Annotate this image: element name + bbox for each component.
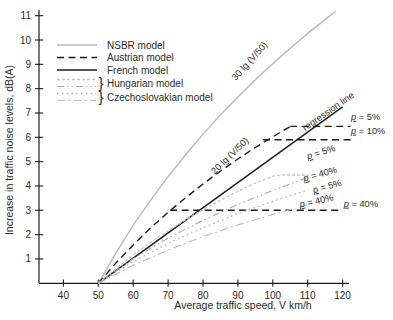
x-axis-title: Average traffic speed, V km/h [174, 299, 312, 311]
x-tick-label: 60 [128, 290, 140, 301]
chart-background [0, 0, 393, 320]
x-tick-label: 120 [334, 290, 351, 301]
y-tick-label: 5 [25, 156, 31, 167]
legend-brace: } [99, 88, 104, 105]
y-tick-label: 6 [25, 132, 31, 143]
y-tick-label: 1 [25, 253, 31, 264]
annotation-4: p = 10% [350, 126, 385, 136]
legend-label: Hungarian model [107, 78, 183, 89]
legend-label: French model [107, 65, 168, 76]
y-tick-label: 9 [25, 59, 31, 70]
legend-label: NSBR model [107, 40, 165, 51]
chart-page: 4050607080901001101201234567891011Averag… [0, 0, 393, 320]
legend-label: Austrian model [107, 52, 174, 63]
y-tick-label: 10 [20, 35, 32, 46]
annotation-9: p = 40% [343, 199, 378, 209]
y-tick-label: 4 [25, 180, 31, 191]
x-tick-label: 50 [93, 290, 105, 301]
y-tick-label: 2 [25, 229, 31, 240]
y-axis-title: Increase in traffic noise levels, dB(A) [3, 65, 15, 235]
y-tick-label: 3 [25, 205, 31, 216]
y-tick-label: 11 [21, 10, 32, 21]
y-tick-label: 8 [25, 83, 31, 94]
y-tick-label: 7 [25, 107, 31, 118]
x-tick-label: 70 [163, 290, 175, 301]
chart-canvas: 4050607080901001101201234567891011Averag… [0, 0, 393, 320]
annotation-3: p = 5% [350, 112, 380, 122]
legend-label: Czechoslovakian model [107, 92, 213, 103]
traffic-noise-model-chart: 4050607080901001101201234567891011Averag… [0, 0, 393, 320]
x-tick-label: 40 [58, 290, 70, 301]
